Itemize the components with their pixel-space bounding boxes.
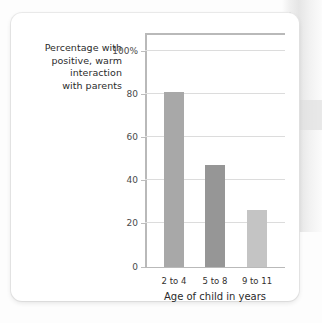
bar-chart-plot-area: 020406080100% 2 to 45 to 89 to 11 <box>145 33 285 268</box>
x-tick-label-2-to-4: 2 to 4 <box>162 276 187 286</box>
y-tick-label-100: 100% <box>112 46 138 56</box>
y-axis-caption-line-2: positive, warm <box>12 55 122 68</box>
y-axis-caption: Percentage with positive, warm interacti… <box>12 42 122 92</box>
y-axis-caption-line-1: Percentage with <box>12 42 122 55</box>
x-tick-label-9-to-11: 9 to 11 <box>242 276 272 286</box>
y-tick-label-40: 40 <box>127 175 138 185</box>
tick-mark-40 <box>141 180 145 181</box>
x-tick-label-5-to-8: 5 to 8 <box>203 276 228 286</box>
plot-top-border <box>145 33 285 35</box>
tick-mark-20 <box>141 223 145 224</box>
y-tick-label-0: 0 <box>132 262 138 272</box>
y-tick-label-60: 60 <box>127 132 138 142</box>
y-axis-caption-line-4: with parents <box>12 80 122 93</box>
tick-mark-100 <box>141 51 145 52</box>
y-axis-line <box>145 33 147 268</box>
gridline-100 <box>145 50 285 51</box>
y-tick-label-80: 80 <box>127 89 138 99</box>
x-axis-line <box>145 267 285 269</box>
figure-screenshot: Percentage with positive, warm interacti… <box>0 0 322 323</box>
y-axis-caption-line-3: interaction <box>12 67 122 80</box>
tick-mark-0 <box>141 267 145 268</box>
tick-mark-80 <box>141 94 145 95</box>
y-tick-label-20: 20 <box>127 218 138 228</box>
bar-5-to-8 <box>205 165 225 267</box>
x-axis-title: Age of child in years <box>145 291 285 302</box>
tick-mark-60 <box>141 137 145 138</box>
bar-2-to-4 <box>164 92 184 267</box>
bar-9-to-11 <box>247 210 267 266</box>
